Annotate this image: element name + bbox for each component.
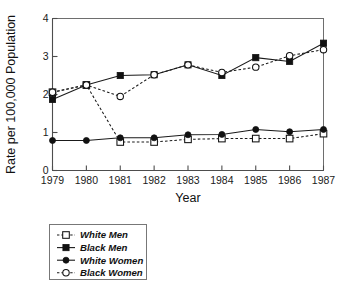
legend-label: White Women [80, 255, 143, 266]
data-point-marker [219, 69, 225, 75]
y-tick-label: 3 [43, 50, 49, 62]
x-tick-label: 1981 [109, 174, 133, 186]
legend-marker [63, 257, 69, 263]
data-point-marker [151, 135, 157, 141]
data-point-marker [151, 72, 157, 78]
legend-label: White Men [80, 229, 128, 240]
data-point-marker [185, 132, 191, 138]
data-point-marker [253, 126, 259, 132]
data-point-marker [117, 72, 123, 78]
line-chart: 01234 1979198019811982198319841985198619… [0, 0, 347, 295]
y-tick-label: 1 [43, 126, 49, 138]
chart-legend: White MenBlack MenWhite WomenBlack Women [50, 225, 147, 280]
data-point-marker [252, 135, 259, 142]
x-tick-label: 1983 [176, 174, 200, 186]
y-tick-label: 4 [43, 12, 49, 24]
legend-label: Black Men [80, 242, 128, 253]
data-point-marker [321, 126, 327, 132]
data-point-marker [219, 131, 225, 137]
series-line [53, 43, 324, 99]
y-tick-label: 2 [43, 88, 49, 100]
plot-frame [53, 19, 324, 171]
data-point-marker [287, 129, 293, 135]
legend-label: Black Women [80, 267, 143, 278]
x-tick-label: 1984 [210, 174, 234, 186]
x-tick-label: 1982 [142, 174, 166, 186]
data-point-marker [49, 89, 55, 95]
x-tick-label: 1980 [75, 174, 99, 186]
x-tick-label: 1987 [312, 174, 336, 186]
data-point-marker [320, 40, 326, 46]
series-layer [49, 40, 327, 145]
data-point-marker [83, 82, 89, 88]
x-tick-label: 1985 [244, 174, 268, 186]
data-point-marker [50, 137, 56, 143]
legend-marker [63, 232, 70, 239]
x-axis-title: Year [175, 191, 200, 205]
x-axis-ticks: 197919801981198219831984198519861987 [41, 166, 336, 186]
data-point-marker [83, 137, 89, 143]
data-point-marker [117, 135, 123, 141]
data-point-marker [253, 55, 259, 61]
x-tick-label: 1979 [41, 174, 65, 186]
legend-marker [63, 245, 69, 251]
series-line [53, 50, 324, 97]
legend-marker [63, 270, 69, 276]
data-point-marker [286, 53, 292, 59]
data-point-marker [117, 93, 123, 99]
y-axis-title: Rate per 100,000 Population [4, 15, 18, 174]
data-point-marker [286, 135, 293, 142]
data-point-marker [185, 62, 191, 68]
chart-figure: 01234 1979198019811982198319841985198619… [0, 0, 347, 295]
data-point-marker [320, 46, 326, 52]
data-point-marker [49, 96, 55, 102]
x-tick-label: 1986 [278, 174, 302, 186]
data-point-marker [253, 64, 259, 70]
